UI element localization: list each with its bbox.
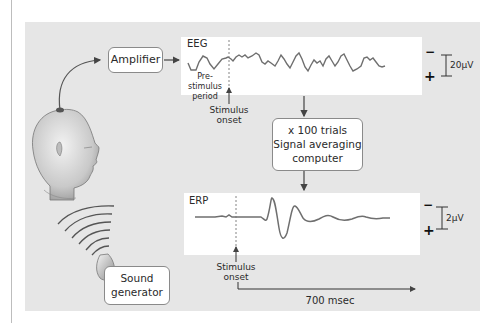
trials-label: x 100 trials [273,123,362,137]
eeg-stimulus-onset-label: Stimulus onset [205,105,253,125]
erp-minus-sign: − [423,198,433,212]
generator-label: generator [105,285,169,299]
computer-label: computer [273,151,362,165]
prestimulus-label: Pre-stimulus period [183,72,227,102]
eeg-title: EEG [187,38,207,49]
erp-scale-label: 2µV [446,213,464,223]
erp-trace [195,198,390,238]
amplifier-box: Amplifier [108,47,163,73]
electrode-wire [59,60,100,110]
erp-stimulus-onset-label: Stimulus onset [212,262,260,282]
erp-plus-sign: + [423,222,435,238]
sound-generator-box: Sound generator [104,266,170,305]
eeg-scale-label: 20µV [450,60,473,70]
signal-averaging-box: x 100 trials Signal averaging computer [272,118,363,171]
amplifier-label: Amplifier [111,53,161,66]
eeg-trace [188,53,385,71]
erp-title: ERP [189,195,208,206]
human-head-illustration [32,108,99,201]
eeg-minus-sign: − [425,45,435,59]
signal-averaging-label: Signal averaging [273,137,362,151]
sound-label: Sound [105,271,169,285]
sound-waves-icon [58,206,114,255]
time-axis-label: 700 msec [300,296,360,306]
time-axis-arrow [238,282,415,289]
eeg-plus-sign: + [424,68,436,84]
